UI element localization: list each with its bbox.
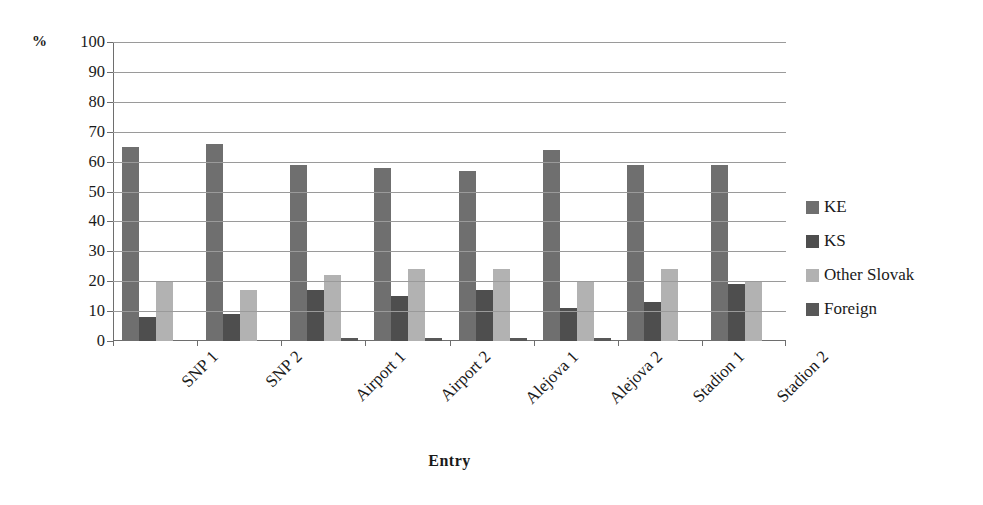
bar (728, 284, 745, 341)
chart-legend: KEKSOther SlovakForeign (806, 190, 914, 326)
y-axis-tick-label: 90 (61, 64, 105, 81)
y-axis-tick-mark (107, 132, 113, 133)
bar (543, 150, 560, 341)
bar-chart: % 1009080706050403020100 SNP 1SNP 2Airpo… (0, 0, 983, 505)
y-axis-unit-label: % (32, 33, 47, 50)
bar (374, 168, 391, 341)
gridline (113, 311, 786, 312)
bar (661, 269, 678, 341)
gridline (113, 192, 786, 193)
y-axis-tick-mark (107, 281, 113, 282)
x-axis-category-label: Airport 1 (352, 347, 411, 406)
legend-label: Foreign (824, 299, 877, 319)
gridline (113, 162, 786, 163)
bar (476, 290, 493, 341)
gridline (113, 72, 786, 73)
y-axis-tick-mark (107, 251, 113, 252)
y-axis-tick-mark (107, 221, 113, 222)
legend-swatch-icon (806, 269, 819, 282)
y-axis-tick-mark (107, 311, 113, 312)
x-axis-category-label: Stadion 2 (773, 347, 833, 407)
y-axis-tick-labels: 1009080706050403020100 (55, 42, 105, 341)
y-axis-tick-mark (107, 42, 113, 43)
y-axis-tick-label: 50 (61, 183, 105, 200)
y-axis-tick-mark (107, 72, 113, 73)
bar (391, 296, 408, 341)
y-axis-tick-label: 10 (61, 303, 105, 320)
y-axis-tick-label: 100 (61, 34, 105, 51)
y-axis-tick-label: 20 (61, 273, 105, 290)
x-axis-category-label: Alejova 1 (521, 347, 582, 408)
gridline (113, 102, 786, 103)
x-axis-title: Entry (113, 452, 786, 470)
bar (223, 314, 240, 341)
bar (240, 290, 257, 341)
plot-area (113, 42, 786, 341)
y-axis-tick-mark (107, 192, 113, 193)
bar (408, 269, 425, 341)
y-axis-tick-mark (107, 102, 113, 103)
bar (139, 317, 156, 341)
legend-swatch-icon (806, 235, 819, 248)
legend-label: KS (824, 231, 846, 251)
legend-entry: KS (806, 224, 914, 258)
y-axis-tick-label: 60 (61, 153, 105, 170)
gridline (113, 251, 786, 252)
gridline (113, 132, 786, 133)
x-axis-category-label: Stadion 1 (689, 347, 749, 407)
legend-label: KE (824, 197, 847, 217)
y-axis-tick-mark (107, 162, 113, 163)
x-axis-category-label: Airport 2 (436, 347, 495, 406)
bar (307, 290, 324, 341)
gridline (113, 281, 786, 282)
y-axis-tick-label: 70 (61, 123, 105, 140)
x-axis-category-label: SNP 2 (262, 347, 307, 392)
legend-entry: Foreign (806, 292, 914, 326)
bar (493, 269, 510, 341)
legend-label: Other Slovak (824, 265, 914, 285)
x-axis-category-labels: SNP 1SNP 2Airport 1Airport 2Alejova 1Ale… (113, 341, 786, 451)
y-axis-tick-label: 80 (61, 94, 105, 111)
legend-swatch-icon (806, 201, 819, 214)
x-axis-category-label: SNP 1 (178, 347, 223, 392)
y-axis-tick-label: 0 (61, 333, 105, 350)
legend-swatch-icon (806, 303, 819, 316)
legend-entry: Other Slovak (806, 258, 914, 292)
y-axis-tick-label: 30 (61, 243, 105, 260)
gridline (113, 221, 786, 222)
gridline (113, 42, 786, 43)
bar (644, 302, 661, 341)
x-axis-category-label: Alejova 2 (605, 347, 666, 408)
legend-entry: KE (806, 190, 914, 224)
bar (560, 308, 577, 341)
bar (324, 275, 341, 341)
y-axis-tick-label: 40 (61, 213, 105, 230)
bar (459, 171, 476, 341)
